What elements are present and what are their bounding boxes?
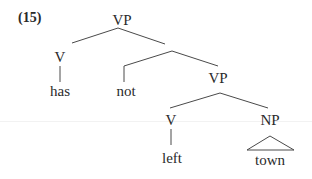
edge-vp-to-v [72, 28, 118, 43]
node-vp-top: VP [112, 13, 131, 28]
node-vp-low: VP [208, 71, 227, 86]
example-number: (15) [18, 11, 41, 25]
leaf-town: town [255, 153, 285, 168]
edge-vp-to-v-left [170, 93, 220, 108]
np-triangle [247, 136, 294, 150]
edge-vp-to-np [220, 93, 268, 108]
node-v-left: V [166, 113, 177, 128]
leaf-left: left [162, 151, 182, 166]
edge-vp-to-bar [118, 28, 165, 44]
leaf-has: has [50, 84, 70, 99]
node-v-has: V [55, 50, 66, 65]
edge-bar-to-not [124, 51, 172, 66]
leaf-not: not [116, 84, 135, 99]
node-np: NP [260, 113, 279, 128]
edge-bar-to-vp [172, 51, 218, 66]
